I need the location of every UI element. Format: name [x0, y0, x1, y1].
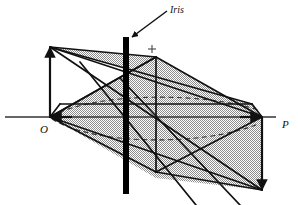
figure-root: Iris O P	[0, 0, 298, 205]
iris-projection-diagram: Iris O P	[0, 0, 298, 205]
iris-bar	[123, 37, 129, 194]
iris-callout-arrow	[132, 11, 167, 37]
origin-label: O	[40, 123, 48, 135]
point-p-label: P	[281, 118, 289, 130]
iris-label: Iris	[169, 4, 184, 15]
cross-marker	[148, 45, 156, 53]
